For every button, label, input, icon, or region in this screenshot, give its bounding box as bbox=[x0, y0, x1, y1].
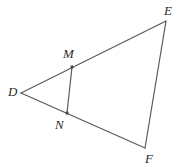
vertex-label-e: E bbox=[164, 4, 172, 17]
geometry-canvas bbox=[0, 0, 182, 167]
segment-mn bbox=[67, 67, 72, 113]
vertex-label-m: M bbox=[63, 47, 74, 60]
vertex-label-n: N bbox=[55, 118, 64, 131]
segment-df bbox=[21, 93, 145, 148]
vertex-label-d: D bbox=[8, 85, 17, 98]
vertex-marker-n bbox=[65, 111, 68, 114]
segment-ef bbox=[145, 21, 166, 148]
vertex-marker-m bbox=[70, 65, 73, 68]
geometry-figure: D E F M N bbox=[0, 0, 182, 167]
vertex-label-f: F bbox=[145, 152, 153, 165]
segment-de bbox=[21, 21, 166, 93]
